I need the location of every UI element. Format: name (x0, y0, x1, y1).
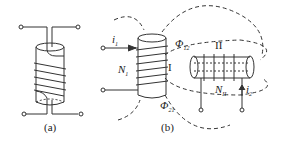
caption-a: (a) (44, 122, 56, 133)
turns-n1-label: N1 (118, 64, 128, 77)
caption-b: (b) (161, 122, 174, 133)
flux-lines (114, 6, 268, 129)
flux-phi21-label: Φ21 (160, 100, 174, 113)
coil-1-label: I (168, 62, 172, 73)
flux-phi12-label: Φ12 (175, 38, 189, 51)
current-i1-label: i1 (112, 34, 118, 47)
coil-2-label: II (215, 40, 222, 51)
current-i2-label: i2 (246, 84, 252, 97)
panel-a-coil (19, 25, 83, 116)
turns-n2-label: NII (215, 84, 226, 97)
mutual-inductance-diagram: i1 N1 I Φ12 Φ21 II NII i2 (a) (b) (0, 0, 287, 148)
